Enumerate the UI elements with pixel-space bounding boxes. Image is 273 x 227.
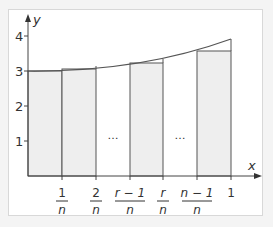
x-axis-arrow-icon [254, 173, 262, 179]
y-axis-arrow-icon [25, 14, 31, 22]
x-tick-2-num: 2 [92, 186, 100, 200]
rect-r [130, 63, 163, 176]
x-tick-1-den: n [58, 203, 66, 217]
x-tick-1: 1 [227, 186, 235, 200]
ellipsis-right: … [175, 129, 186, 142]
y-axis-label: y [32, 12, 41, 27]
riemann-sum-diagram: y x 4 3 2 1 1 n 2 n r − 1 n r n n − 1 n … [0, 0, 273, 227]
rect-2 [62, 69, 96, 176]
x-tick-r-minus-1-den: n [126, 203, 134, 217]
x-tick-r-num: r [161, 186, 167, 200]
rect-1 [28, 71, 62, 176]
x-tick-n-minus-1-den: n [193, 203, 201, 217]
x-tick-2-den: n [92, 203, 100, 217]
x-tick-n-minus-1-num: n − 1 [181, 186, 214, 200]
ellipsis-left: … [108, 129, 119, 142]
y-tick-4: 4 [15, 29, 23, 44]
x-tick-r-minus-1-num: r − 1 [115, 186, 145, 200]
y-tick-3: 3 [15, 64, 23, 79]
y-tick-1: 1 [15, 134, 23, 149]
y-tick-2: 2 [15, 99, 23, 114]
rectangles [28, 51, 231, 176]
rect-n [197, 51, 231, 176]
x-axis-label: x [247, 158, 256, 173]
x-tick-1-num: 1 [58, 186, 66, 200]
x-tick-r-den: n [159, 203, 167, 217]
